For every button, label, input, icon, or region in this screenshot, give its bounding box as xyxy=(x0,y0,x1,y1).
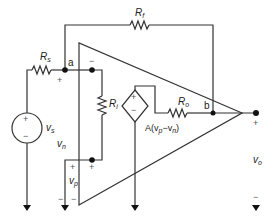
ground-arrow-icon xyxy=(23,205,31,211)
ri-wire-top xyxy=(92,70,102,96)
vp-minus-sign: − xyxy=(71,195,76,204)
inverting-minus-sign: − xyxy=(89,57,94,66)
label-vn: vn xyxy=(57,139,66,150)
source-wire xyxy=(27,70,32,113)
label-vp: vp xyxy=(69,176,78,187)
label-node-a: a xyxy=(68,58,74,68)
node-output xyxy=(253,110,259,116)
dep-src-minus-sign: − xyxy=(131,106,136,115)
rf-resistor xyxy=(130,21,149,29)
label-rf: Rf xyxy=(135,8,144,19)
ground-arrow-icon xyxy=(61,205,69,211)
vn-minus-sign: − xyxy=(58,195,63,204)
node-a xyxy=(62,67,68,73)
vo-plus-sign: + xyxy=(253,119,258,128)
feedback-wire xyxy=(65,25,130,70)
rs-plus-sign: + xyxy=(57,76,62,85)
ri-resistor xyxy=(98,96,106,115)
ground-arrow-icon xyxy=(252,205,260,211)
dep-src-top-wire xyxy=(135,86,168,113)
label-vo: vo xyxy=(253,155,262,166)
node-inverting-input xyxy=(89,67,95,73)
label-vs: vs xyxy=(46,123,55,134)
label-ri: Ri xyxy=(109,99,118,110)
rs-resistor xyxy=(32,66,51,74)
dep-src-plus-sign: + xyxy=(131,93,136,102)
ri-wire-bottom xyxy=(92,115,102,160)
label-ro: Ro xyxy=(178,97,189,108)
vs-minus-sign: − xyxy=(23,132,28,141)
label-rs: Rs xyxy=(40,52,51,63)
ground-arrow-icon xyxy=(131,205,139,211)
circuit-diagram: Rs Rf Ri Ro vs a b vn vp vo A(vp−vn) + −… xyxy=(0,0,273,224)
node-b xyxy=(211,111,216,116)
vs-plus-sign: + xyxy=(23,115,28,124)
noninverting-plus-sign: + xyxy=(89,163,94,172)
label-dependent-source: A(vp−vn) xyxy=(145,124,179,134)
vn-plus-sign: + xyxy=(70,163,75,172)
ro-resistor xyxy=(168,109,187,117)
vo-minus-sign: − xyxy=(253,193,258,202)
label-node-b: b xyxy=(204,101,210,111)
circuit-schematic xyxy=(0,0,273,224)
